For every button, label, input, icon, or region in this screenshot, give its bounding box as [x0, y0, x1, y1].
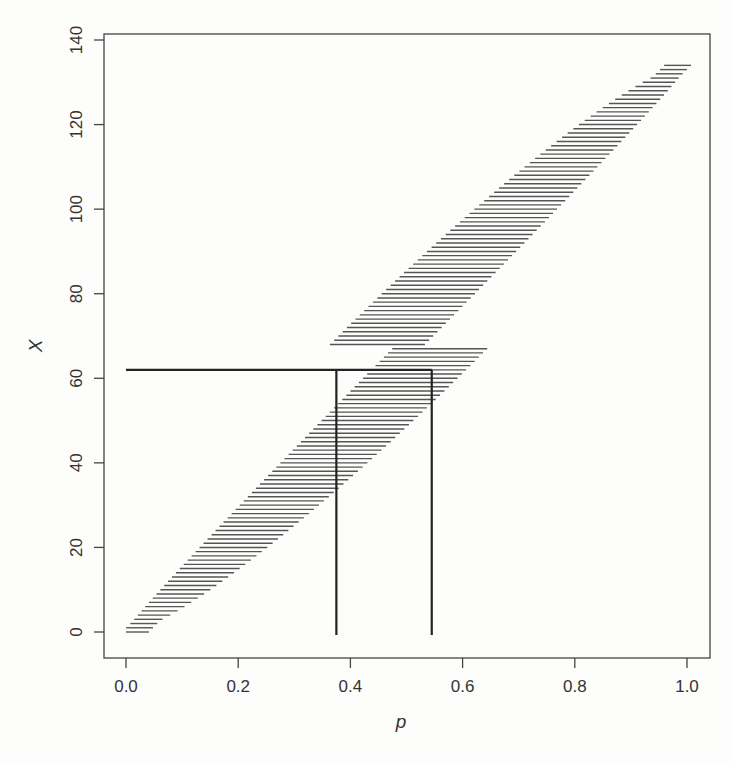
- x-tick-label: 0.0: [114, 677, 138, 696]
- y-tick-label: 100: [67, 195, 86, 223]
- y-tick-label: 20: [67, 538, 86, 557]
- interval-annotation: [126, 370, 432, 635]
- x-tick-label: 0.6: [451, 677, 475, 696]
- y-tick-label: 0: [67, 627, 86, 636]
- x-tick-label: 0.4: [339, 677, 363, 696]
- x-axis: 0.00.20.40.60.81.0: [114, 658, 699, 696]
- x-tick-label: 0.8: [563, 677, 587, 696]
- y-tick-label: 80: [67, 284, 86, 303]
- y-tick-label: 60: [67, 369, 86, 388]
- confidence-belt: [126, 65, 691, 632]
- x-tick-label: 1.0: [675, 677, 699, 696]
- x-tick-label: 0.2: [226, 677, 250, 696]
- y-axis: 020406080100120140: [67, 26, 104, 637]
- y-tick-label: 140: [67, 26, 86, 54]
- x-axis-title: p: [395, 711, 407, 732]
- y-tick-label: 120: [67, 110, 86, 138]
- confidence-belt-chart: 0.00.20.40.60.81.0 020406080100120140 p …: [0, 0, 732, 764]
- y-axis-title: X: [25, 338, 46, 353]
- y-tick-label: 40: [67, 453, 86, 472]
